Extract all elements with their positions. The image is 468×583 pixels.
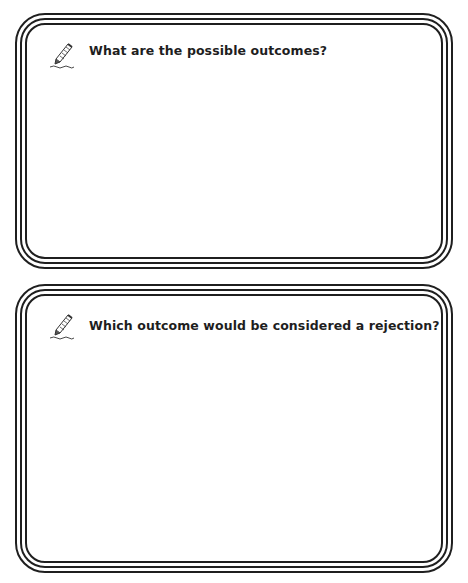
question-prompt: Which outcome would be considered a reje… xyxy=(89,318,440,333)
pencil-icon xyxy=(49,313,75,341)
question-card-outcomes: What are the possible outcomes? xyxy=(15,13,453,269)
card-border-inner xyxy=(25,294,443,563)
question-card-rejection: Which outcome would be considered a reje… xyxy=(15,284,453,573)
card-border-inner xyxy=(25,23,443,259)
pencil-icon xyxy=(49,42,75,70)
question-prompt: What are the possible outcomes? xyxy=(89,43,327,58)
